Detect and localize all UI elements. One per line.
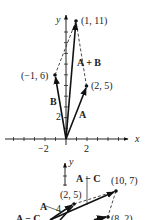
point-2-5-label: (2, 5) — [60, 189, 82, 201]
point-10-7-label: (10, 7) — [111, 175, 138, 187]
vector-b — [56, 77, 67, 139]
point-b — [53, 73, 57, 77]
point-8-2 — [106, 215, 110, 219]
dashed-a-to-sum — [76, 21, 87, 86]
vector-a-minus-c-label: A − C — [76, 173, 101, 184]
point-8-2-label: (8, 2) — [111, 213, 133, 220]
point-b-label: (−1, 6) — [21, 70, 48, 82]
x-tick-label-2: 2 — [84, 143, 89, 154]
vector-a-plus-b-label: A + B — [77, 57, 101, 68]
point-a — [85, 84, 89, 88]
vector-diagram: y x (1, 11) (−1, 6) (2, 5) A + B B A 2 −… — [0, 0, 152, 220]
top-figure: y x (1, 11) (−1, 6) (2, 5) A + B B A 2 −… — [5, 14, 140, 154]
y-axis-label-bottom: y — [68, 156, 74, 167]
vector-b-label: B — [50, 96, 57, 107]
y-tick-label-4: 4 — [56, 203, 61, 214]
point-2-5 — [72, 202, 76, 206]
vector-a-label-bottom: A — [40, 201, 48, 212]
x-axis-label: x — [134, 133, 140, 144]
y-axis-label: y — [55, 14, 61, 25]
point-sum — [74, 19, 78, 23]
bottom-figure: y A − C (10, 7) (2, 5) A 4 A − C (8, 2) — [16, 156, 138, 220]
vector-a-minus-c-lower-label: A − C — [16, 213, 41, 220]
vector-a-label: A — [79, 109, 87, 120]
point-10-7 — [114, 189, 118, 193]
vector-c — [94, 217, 106, 220]
x-tick-label-neg2: −2 — [38, 143, 49, 154]
point-a-label: (2, 5) — [91, 80, 113, 92]
y-tick-label-2: 2 — [56, 111, 61, 122]
vector-a-plus-b — [66, 23, 76, 139]
point-sum-label: (1, 11) — [81, 15, 107, 27]
